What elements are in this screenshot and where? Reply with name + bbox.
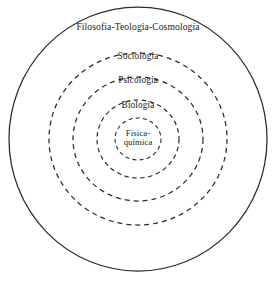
ring-circle-biologia bbox=[97, 100, 179, 178]
diagram-shapes bbox=[0, 0, 278, 282]
ring-circle-outer-solid bbox=[9, 7, 267, 271]
ring-circle-fisica-quimica bbox=[115, 118, 161, 160]
ring-circle-sociologia bbox=[49, 53, 227, 225]
concentric-circles-diagram: Filosofia-Teologia-Cosmologia Sociologia… bbox=[0, 0, 278, 282]
ring-circle-psicologia bbox=[73, 77, 203, 201]
